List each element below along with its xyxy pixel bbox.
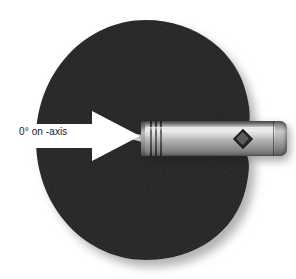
pencil-condenser-microphone <box>141 119 287 159</box>
microphone-highlight <box>145 127 281 131</box>
on-axis-arrow-label: 0° on -axis <box>19 125 67 138</box>
figure-canvas: 0° on -axis <box>0 0 296 279</box>
microphone-seam <box>273 121 274 156</box>
microphone-tail-cap <box>275 121 287 156</box>
diamond-logo-badge <box>234 130 251 147</box>
